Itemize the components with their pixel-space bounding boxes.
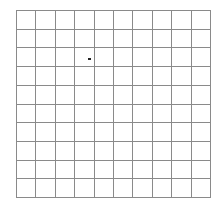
- grid-cell[interactable]: [114, 30, 133, 49]
- grid-cell[interactable]: [75, 11, 94, 30]
- grid-cell[interactable]: [133, 123, 152, 142]
- grid-cell[interactable]: [153, 67, 172, 86]
- grid-cell[interactable]: [114, 105, 133, 124]
- grid-cell[interactable]: [75, 48, 94, 67]
- grid-cell[interactable]: [172, 161, 191, 180]
- grid-cell[interactable]: [17, 67, 36, 86]
- grid-cell[interactable]: [114, 86, 133, 105]
- grid-cell[interactable]: [192, 48, 211, 67]
- grid-cell[interactable]: [56, 11, 75, 30]
- grid-cell[interactable]: [172, 179, 191, 198]
- grid-cell[interactable]: [17, 161, 36, 180]
- grid-cell[interactable]: [17, 123, 36, 142]
- grid-cell[interactable]: [36, 48, 55, 67]
- grid-cell[interactable]: [153, 48, 172, 67]
- grid-cell[interactable]: [95, 123, 114, 142]
- grid-cell[interactable]: [192, 67, 211, 86]
- grid-cell[interactable]: [17, 105, 36, 124]
- grid-cell[interactable]: [172, 67, 191, 86]
- grid-cell[interactable]: [75, 179, 94, 198]
- grid-cell[interactable]: [172, 11, 191, 30]
- grid-cell[interactable]: [153, 30, 172, 49]
- grid-cell[interactable]: [56, 123, 75, 142]
- grid-cell[interactable]: [56, 105, 75, 124]
- grid-cell[interactable]: [133, 86, 152, 105]
- grid-cell[interactable]: [153, 142, 172, 161]
- grid-cell[interactable]: [95, 142, 114, 161]
- grid-cell[interactable]: [153, 105, 172, 124]
- grid-cell[interactable]: [36, 11, 55, 30]
- grid-cell[interactable]: [56, 48, 75, 67]
- grid-cell[interactable]: [36, 123, 55, 142]
- grid-cell[interactable]: [17, 48, 36, 67]
- grid-cell[interactable]: [133, 67, 152, 86]
- grid-cell[interactable]: [192, 105, 211, 124]
- grid-cell[interactable]: [153, 11, 172, 30]
- grid-cell[interactable]: [75, 161, 94, 180]
- grid-cell[interactable]: [56, 161, 75, 180]
- grid-cell[interactable]: [153, 123, 172, 142]
- grid-cell[interactable]: [192, 179, 211, 198]
- grid-cell[interactable]: [192, 142, 211, 161]
- grid-cell[interactable]: [95, 179, 114, 198]
- grid-cell[interactable]: [172, 142, 191, 161]
- grid-cell[interactable]: [95, 11, 114, 30]
- grid-cell[interactable]: [172, 86, 191, 105]
- grid-cell[interactable]: [153, 86, 172, 105]
- grid-cell[interactable]: [133, 30, 152, 49]
- grid-cell[interactable]: [95, 30, 114, 49]
- grid-cell[interactable]: [75, 105, 94, 124]
- grid-cell[interactable]: [192, 86, 211, 105]
- grid-cell[interactable]: [17, 142, 36, 161]
- grid-cell[interactable]: [17, 86, 36, 105]
- grid-cell[interactable]: [133, 179, 152, 198]
- grid-cell[interactable]: [133, 48, 152, 67]
- grid-cell[interactable]: [75, 142, 94, 161]
- grid-cell[interactable]: [75, 67, 94, 86]
- grid-cell[interactable]: [75, 86, 94, 105]
- grid-cell[interactable]: [114, 67, 133, 86]
- grid-cell[interactable]: [153, 161, 172, 180]
- grid-cell[interactable]: [192, 161, 211, 180]
- grid-cell[interactable]: [172, 105, 191, 124]
- grid-cell[interactable]: [172, 48, 191, 67]
- grid-cell[interactable]: [17, 30, 36, 49]
- grid-cell[interactable]: [95, 161, 114, 180]
- grid-cell[interactable]: [36, 86, 55, 105]
- grid-cell[interactable]: [95, 105, 114, 124]
- grid-cell[interactable]: [114, 179, 133, 198]
- grid-cell[interactable]: [75, 123, 94, 142]
- grid-cell[interactable]: [95, 48, 114, 67]
- grid-cell[interactable]: [172, 123, 191, 142]
- grid-cell[interactable]: [56, 67, 75, 86]
- grid-cell[interactable]: [95, 86, 114, 105]
- grid-cell[interactable]: [36, 161, 55, 180]
- grid-cell[interactable]: [114, 48, 133, 67]
- grid-cell[interactable]: [192, 11, 211, 30]
- grid-cell[interactable]: [192, 30, 211, 49]
- grid-cell[interactable]: [192, 123, 211, 142]
- grid-cell[interactable]: [56, 179, 75, 198]
- grid-cell[interactable]: [114, 11, 133, 30]
- grid-cell[interactable]: [36, 142, 55, 161]
- grid-cell[interactable]: [133, 11, 152, 30]
- grid-cell[interactable]: [17, 179, 36, 198]
- grid-cell[interactable]: [153, 179, 172, 198]
- grid-cell[interactable]: [172, 30, 191, 49]
- grid-cell[interactable]: [114, 161, 133, 180]
- grid-cell[interactable]: [36, 67, 55, 86]
- grid-cell[interactable]: [36, 179, 55, 198]
- grid-cell[interactable]: [133, 142, 152, 161]
- grid-cell[interactable]: [133, 161, 152, 180]
- grid-cell[interactable]: [56, 86, 75, 105]
- grid-cell[interactable]: [36, 105, 55, 124]
- grid-cell[interactable]: [56, 30, 75, 49]
- grid-cell[interactable]: [75, 30, 94, 49]
- grid-cell[interactable]: [17, 11, 36, 30]
- grid-cell[interactable]: [114, 142, 133, 161]
- grid-cell[interactable]: [36, 30, 55, 49]
- grid-cell[interactable]: [56, 142, 75, 161]
- grid-cell[interactable]: [95, 67, 114, 86]
- grid-cell[interactable]: [133, 105, 152, 124]
- grid-cell[interactable]: [114, 123, 133, 142]
